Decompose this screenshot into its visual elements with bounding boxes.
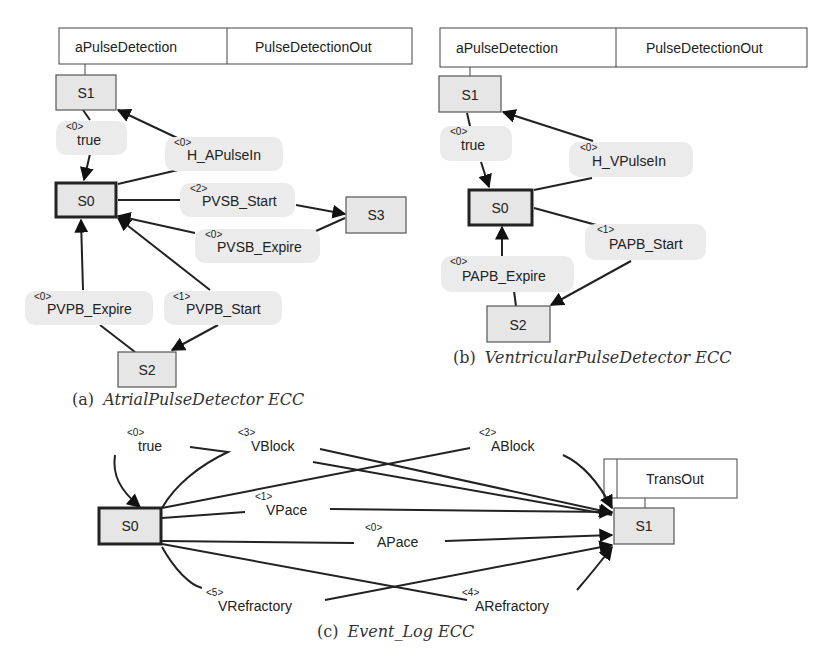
action-header-a: aPulseDetection PulseDetectionOut (59, 28, 412, 75)
svg-text:ARefractory: ARefractory (475, 598, 549, 614)
svg-text:true: true (138, 438, 162, 454)
transition-vrefractory: <5> VRefractory (206, 587, 292, 614)
svg-text:S0: S0 (121, 518, 138, 534)
svg-text:<1>: <1> (597, 224, 614, 235)
transition-pvpb-start: <1> PVPB_Start (164, 291, 282, 325)
state-s2-a: S2 (118, 352, 176, 387)
action-name: aPulseDetection (75, 39, 177, 55)
transition-ablock: <2> ABlock (479, 427, 536, 454)
transition-pvpb-expire: <0> PVPB_Expire (25, 291, 153, 325)
figure-c-event-log: TransOut S0 S1 <0> true (99, 427, 737, 641)
svg-text:<0>: <0> (450, 256, 467, 267)
figure-b-ventricular-pulse-detector: aPulseDetection PulseDetectionOut S1 S0 … (439, 28, 807, 367)
state-s0-b: S0 (469, 190, 532, 225)
state-s1-b: S1 (439, 76, 501, 112)
transition-pvsb-expire: <0> PVSB_Expire (195, 229, 320, 263)
svg-text:PVPB_Start: PVPB_Start (186, 301, 261, 317)
svg-text:VPace: VPace (266, 502, 307, 518)
svg-text:S1: S1 (461, 87, 478, 103)
action-header-b: aPulseDetection PulseDetectionOut (440, 28, 807, 76)
svg-text:<0>: <0> (580, 142, 597, 153)
svg-text:ABlock: ABlock (491, 438, 536, 454)
figure-a-atrial-pulse-detector: aPulseDetection PulseDetectionOut S1 S0 … (25, 28, 412, 409)
transition-h-vpulsein: <0> H_VPulseIn (569, 142, 693, 177)
svg-text:VRefractory: VRefractory (218, 598, 292, 614)
state-s1-c: S1 (614, 508, 674, 544)
transition-vblock: <3> VBlock (238, 427, 296, 454)
svg-text:S1: S1 (635, 518, 652, 534)
svg-text:true: true (77, 132, 101, 148)
state-s2-b: S2 (487, 306, 550, 342)
state-s1-a: S1 (56, 75, 116, 110)
caption-b: (b) VentricularPulseDetector ECC (453, 348, 731, 367)
svg-text:S2: S2 (509, 317, 526, 333)
action-name: aPulseDetection (456, 40, 558, 56)
svg-text:<5>: <5> (206, 587, 223, 598)
transition-true-b: <0> true (440, 126, 512, 161)
svg-text:H_APulseIn: H_APulseIn (187, 147, 261, 163)
svg-text:H_VPulseIn: H_VPulseIn (592, 153, 666, 169)
svg-text:<0>: <0> (450, 126, 467, 137)
transition-vpace: <1> VPace (255, 491, 307, 518)
svg-text:<1>: <1> (255, 491, 272, 502)
svg-text:<2>: <2> (479, 427, 496, 438)
caption-c: (c) Event_Log ECC (317, 622, 474, 641)
transition-pvsb-start: <2> PVSB_Start (180, 183, 295, 217)
svg-text:S2: S2 (138, 362, 155, 378)
state-s0-c: S0 (99, 508, 161, 544)
svg-text:PAPB_Start: PAPB_Start (609, 236, 683, 252)
svg-text:(b) VentricularPulseDe: (b) VentricularPulseDetector ECC (453, 348, 731, 367)
transition-true-a: <0> true (56, 121, 127, 155)
svg-text:S0: S0 (77, 193, 94, 209)
svg-text:(a) AtrialPulseDetecto: (a) AtrialPulseDetector ECC (72, 390, 304, 409)
svg-text:<0>: <0> (127, 427, 144, 438)
transition-papb-start: <1> PAPB_Start (585, 224, 706, 260)
svg-text:PVSB_Expire: PVSB_Expire (217, 239, 302, 255)
action-output: PulseDetectionOut (646, 40, 763, 56)
svg-text:<4>: <4> (462, 587, 479, 598)
transition-apace: <0> APace (365, 522, 418, 550)
transition-h-apulsein: <0> H_APulseIn (165, 137, 283, 171)
state-s0-a: S0 (56, 183, 116, 217)
svg-text:PVPB_Expire: PVPB_Expire (47, 301, 132, 317)
state-s3-a: S3 (346, 197, 406, 233)
transition-true-c: <0> true (127, 427, 162, 454)
svg-text:<3>: <3> (238, 427, 255, 438)
svg-text:S1: S1 (77, 85, 94, 101)
svg-text:PVSB_Start: PVSB_Start (202, 193, 277, 209)
svg-text:true: true (461, 137, 485, 153)
action-output: TransOut (646, 471, 704, 487)
svg-text:<0>: <0> (66, 121, 83, 132)
svg-text:S3: S3 (367, 207, 384, 223)
svg-text:APace: APace (377, 534, 418, 550)
transition-papb-expire: <0> PAPB_Expire (441, 256, 574, 292)
transition-arefractory: <4> ARefractory (462, 587, 549, 614)
svg-text:PAPB_Expire: PAPB_Expire (462, 268, 546, 284)
svg-text:VBlock: VBlock (251, 438, 296, 454)
caption-a: (a) AtrialPulseDetector ECC (72, 390, 304, 409)
svg-text:S0: S0 (491, 200, 508, 216)
ecc-diagrams: aPulseDetection PulseDetectionOut S1 S0 … (0, 0, 830, 669)
action-header-c: TransOut (604, 459, 737, 508)
svg-text:(c) Event_Log ECC: (c) Event_Log ECC (317, 622, 474, 641)
svg-text:<0>: <0> (365, 522, 382, 533)
action-output: PulseDetectionOut (255, 39, 372, 55)
